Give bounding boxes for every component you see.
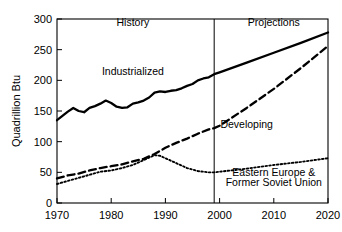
x-tick-label-1970: 1970 [45,209,69,221]
y-tick-label-200: 200 [34,74,52,86]
annotation-industrialized: Industrialized [102,65,164,77]
y-axis-ticks: 050100150200250300 [34,13,62,209]
x-tick-label-2000: 2000 [207,209,231,221]
y-tick-label-300: 300 [34,13,52,25]
x-tick-label-2010: 2010 [262,209,286,221]
annotation-projections: Projections [248,16,300,28]
series-lines [57,32,328,184]
y-tick-label-0: 0 [46,197,52,209]
x-tick-label-1980: 1980 [99,209,123,221]
chart-canvas: 050100150200250300 197019801990200020102… [0,0,342,232]
series-line-1 [57,46,328,178]
series-line-0 [57,32,328,120]
y-tick-label-100: 100 [34,136,52,148]
energy-consumption-chart: 050100150200250300 197019801990200020102… [0,0,342,232]
annotation-former-soviet-union: Former Soviet Union [226,176,322,188]
annotation-developing: Developing [220,118,273,130]
y-tick-label-250: 250 [34,44,52,56]
annotation-history: History [117,16,150,28]
y-tick-label-50: 50 [40,166,52,178]
y-tick-label-150: 150 [34,105,52,117]
x-axis-ticks: 197019801990200020102020 [45,198,340,221]
y-axis-title: Quadrillion Btu [10,75,22,147]
x-tick-label-2020: 2020 [316,209,340,221]
x-tick-label-1990: 1990 [153,209,177,221]
